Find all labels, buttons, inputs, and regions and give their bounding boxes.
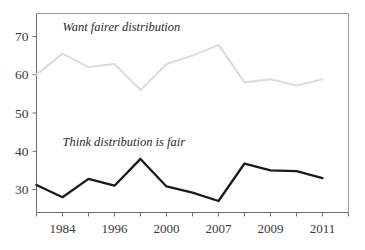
y-tick-label: 40: [15, 144, 29, 159]
y-tick-label: 30: [15, 182, 29, 197]
y-tick-label: 50: [15, 106, 29, 121]
chart-container: 3040506070 198419962000200720092011 Want…: [0, 0, 365, 250]
x-tick-label: 2000: [154, 221, 180, 236]
x-tick-label: 2007: [206, 221, 233, 236]
series-label-dark: Think distribution is fair: [63, 135, 186, 149]
y-tick-label: 70: [15, 29, 29, 44]
series-label-light: Want fairer distribution: [63, 20, 181, 34]
y-tick-label: 60: [15, 67, 29, 82]
line-chart: 3040506070 198419962000200720092011 Want…: [0, 0, 365, 250]
x-tick-label: 2009: [258, 221, 284, 236]
x-tick-label: 1996: [102, 221, 129, 236]
x-tick-label: 2011: [310, 221, 336, 236]
x-tick-label: 1984: [50, 221, 77, 236]
